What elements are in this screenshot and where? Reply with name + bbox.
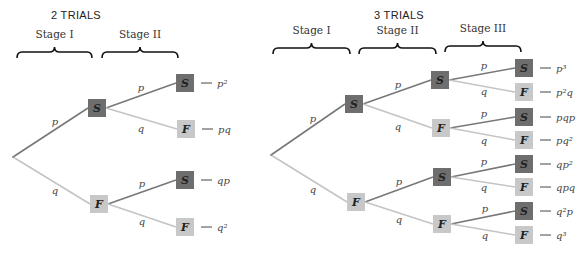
node-letter: F	[181, 123, 191, 136]
outcome-probability: p²	[217, 78, 227, 89]
stage-brace	[273, 43, 350, 54]
node-letter: S	[181, 174, 189, 187]
branch-probability-label: q	[482, 230, 488, 241]
node-letter: S	[181, 77, 189, 90]
outcome-probability: qp²	[556, 159, 573, 170]
branch-p	[13, 108, 88, 157]
root-point	[12, 156, 14, 158]
node-letter: F	[437, 218, 447, 231]
branch-probability-label: p	[310, 113, 317, 124]
branch-probability-label: p	[395, 79, 402, 90]
failure-node: Fq³	[515, 226, 566, 244]
success-node: Sp²	[176, 74, 227, 92]
branch-probability-label: p	[138, 82, 145, 93]
node-letter: F	[436, 122, 446, 135]
branch-probability-label: q	[52, 185, 58, 196]
probability-tree-figure: 2 TRIALSStage IStage IIpqpqpqSFSp²FpqSqp…	[0, 0, 588, 253]
failure-node: F	[433, 215, 451, 233]
failure-node: Fpq²	[515, 131, 573, 149]
branch-probability-label: p	[481, 60, 488, 71]
failure-node: Fqpq	[515, 178, 575, 196]
branch-probability-label: p	[482, 203, 489, 214]
failure-node: Fq²	[176, 218, 227, 236]
branch-probability-label: q	[310, 184, 316, 195]
diagram-title: 3 TRIALS	[374, 9, 424, 21]
stage-brace	[102, 47, 178, 58]
success-node: S	[431, 71, 449, 89]
node-letter: F	[94, 198, 104, 211]
branch-p	[271, 104, 345, 155]
three-trials-diagram: 3 TRIALSStage IStage IIStage IIIpqpqpqpq…	[270, 9, 576, 244]
success-node: S	[88, 99, 106, 117]
branch-probability-label: q	[138, 123, 144, 134]
failure-node: F	[432, 119, 450, 137]
branch-probability-label: q	[395, 121, 401, 132]
outcome-probability: p³	[556, 63, 566, 74]
success-node: Sq²p	[515, 202, 573, 220]
success-node: S	[345, 95, 363, 113]
node-letter: F	[519, 134, 529, 147]
stage-brace	[17, 47, 92, 58]
node-letter: S	[438, 171, 446, 184]
outcome-probability: qpq	[556, 182, 575, 193]
outcome-probability: q²p	[556, 206, 573, 217]
node-letter: S	[436, 74, 444, 87]
failure-node: F	[90, 195, 108, 213]
outcome-probability: pq	[218, 124, 231, 135]
node-letter: F	[519, 229, 529, 242]
failure-node: Fpq	[177, 120, 231, 138]
node-letter: S	[520, 62, 528, 75]
failure-node: Fp²q	[515, 83, 573, 101]
two-trials-diagram: 2 TRIALSStage IStage IIpqpqpqSFSp²FpqSqp…	[12, 9, 231, 236]
stage-brace	[445, 41, 521, 52]
branch-q	[13, 157, 90, 204]
stage-label: Stage II	[119, 28, 161, 40]
stage-label: Stage I	[292, 24, 330, 36]
branch-probability-label: p	[396, 176, 403, 187]
branch-probability-label: q	[139, 216, 145, 227]
outcome-probability: qp	[217, 175, 230, 186]
node-letter: S	[93, 102, 101, 115]
diagram-title: 2 TRIALS	[51, 9, 101, 21]
node-letter: S	[520, 111, 528, 124]
node-letter: F	[180, 221, 190, 234]
success-node: Sqp	[176, 171, 230, 189]
outcome-probability: p²q	[556, 87, 573, 98]
stage-label: Stage I	[35, 28, 73, 40]
branch-probability-label: p	[481, 108, 488, 119]
success-node: Sqp²	[515, 155, 573, 173]
success-node: Sp³	[515, 59, 566, 77]
stage-label: Stage III	[460, 22, 506, 34]
root-point	[270, 154, 272, 156]
success-node: S	[433, 168, 451, 186]
branch-probability-label: q	[481, 182, 487, 193]
node-letter: S	[350, 98, 358, 111]
branch-probability-label: q	[481, 135, 487, 146]
branch-probability-label: q	[481, 86, 487, 97]
branch-probability-label: p	[52, 116, 59, 127]
node-letter: F	[519, 86, 529, 99]
outcome-probability: q³	[556, 230, 566, 241]
failure-node: F	[347, 193, 365, 211]
node-letter: F	[351, 196, 361, 209]
node-letter: S	[520, 205, 528, 218]
outcome-probability: pq²	[556, 135, 573, 146]
outcome-probability: q²	[217, 222, 227, 233]
node-letter: S	[520, 158, 528, 171]
outcome-probability: pqp	[556, 112, 576, 123]
branch-probability-label: q	[396, 214, 402, 225]
stage-brace	[359, 43, 436, 54]
stage-label: Stage II	[376, 24, 418, 36]
success-node: Spqp	[515, 108, 576, 126]
branch-probability-label: p	[139, 178, 146, 189]
branch-probability-label: p	[481, 156, 488, 167]
node-letter: F	[519, 181, 529, 194]
